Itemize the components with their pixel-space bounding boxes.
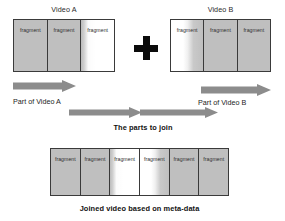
plus-icon [134, 36, 158, 60]
joined-fragment-4: fragment [140, 149, 170, 195]
fragment-label: fragment [243, 27, 264, 33]
video-b-title: Video B [170, 5, 271, 14]
joined-fragment-5: fragment [170, 149, 200, 195]
fragment-label: fragment [177, 27, 198, 33]
fragment-label: fragment [87, 27, 108, 33]
video-a-title: Video A [13, 5, 115, 14]
video-join-diagram: Video A fragment fragment fragment Video… [0, 0, 285, 221]
caption-joined-video: Joined video based on meta-data [50, 204, 229, 213]
arrow-part-of-video-a [13, 80, 76, 92]
fragment-label: fragment [174, 156, 195, 162]
fragment-label: fragment [210, 27, 231, 33]
arrow-join-right [140, 107, 218, 118]
arrow-join-left [69, 107, 142, 118]
video-b-fragment-1: fragment [171, 20, 204, 71]
fragment-label: fragment [85, 156, 106, 162]
label-part-of-video-a: Part of Video A [13, 97, 61, 106]
video-a-fragment-2: fragment [48, 20, 82, 71]
arrow-part-of-video-b [201, 84, 271, 96]
video-b-strip: fragment fragment fragment [170, 19, 271, 72]
video-a-fragment-3: fragment [81, 20, 114, 71]
fragment-label: fragment [55, 156, 76, 162]
joined-fragment-1: fragment [51, 149, 81, 195]
fragment-label: fragment [203, 156, 224, 162]
fragment-label: fragment [144, 156, 165, 162]
label-parts-to-join: The parts to join [83, 123, 203, 132]
fragment-label: fragment [114, 156, 135, 162]
joined-video-strip: fragment fragment fragment fragment frag… [50, 148, 229, 196]
video-b-fragment-3: fragment [238, 20, 270, 71]
video-b-fragment-2: fragment [204, 20, 237, 71]
joined-fragment-3: fragment [110, 149, 140, 195]
fragment-label: fragment [54, 27, 75, 33]
label-part-of-video-b: Part of Video B [198, 98, 246, 107]
video-a-strip: fragment fragment fragment [13, 19, 115, 72]
joined-fragment-2: fragment [81, 149, 111, 195]
video-a-fragment-1: fragment [14, 20, 48, 71]
fragment-label: fragment [20, 27, 41, 33]
joined-fragment-6: fragment [199, 149, 228, 195]
